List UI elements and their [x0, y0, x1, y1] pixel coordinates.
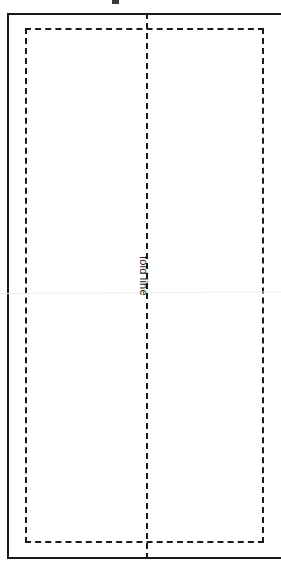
fold-line-label: fold line [138, 256, 149, 296]
edge-artifact-mark [112, 0, 119, 4]
diagram-canvas: fold line [0, 0, 281, 566]
